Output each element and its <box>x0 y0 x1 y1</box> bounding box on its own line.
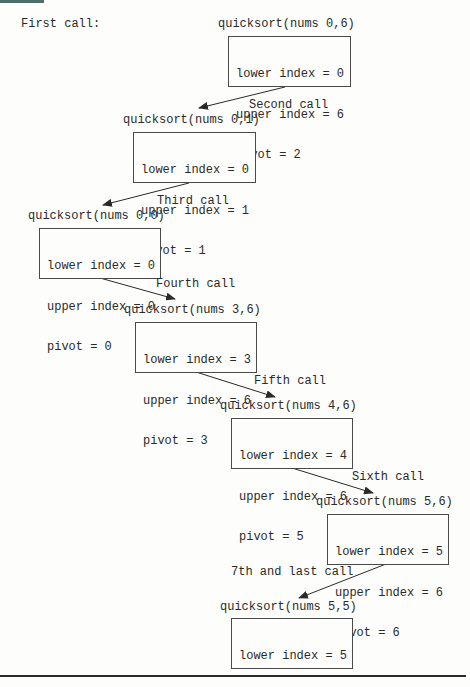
arrow-label-last: 7th and last call <box>231 565 353 579</box>
call-frame-4: lower index = 3 upper index = 6 pivot = … <box>135 322 257 373</box>
call-frame-3: lower index = 0 upper index = 0 pivot = … <box>39 228 161 279</box>
lower-index: lower index = 5 <box>239 650 352 664</box>
upper-index: upper index = 6 <box>335 587 448 601</box>
bottom-divider <box>0 675 466 677</box>
call-title-1: quicksort(nums 0,6) <box>218 17 355 31</box>
arrow-label-sixth: Sixth call <box>352 470 424 484</box>
call-title-5: quicksort(nums 4,6) <box>220 399 357 413</box>
arrow-label-fourth: Fourth call <box>156 277 235 291</box>
call-title-3: quicksort(nums 0,0) <box>28 209 165 223</box>
call-frame-1: lower index = 0 upper index = 6 pivot = … <box>228 36 351 87</box>
call-title-7: quicksort(nums 5,5) <box>220 600 357 614</box>
lower-index: lower index = 0 <box>236 68 350 82</box>
call-frame-2: lower index = 0 upper index = 1 pivot = … <box>133 132 256 183</box>
call-frame-6: lower index = 5 upper index = 6 pivot = … <box>327 514 449 565</box>
call-frame-7: lower index = 5 upper index = 5 pivot = … <box>231 618 353 669</box>
call-title-2: quicksort(nums 0,1) <box>123 113 260 127</box>
lower-index: lower index = 3 <box>143 354 256 368</box>
arrow-label-third: Third call <box>157 194 229 208</box>
call-title-4: quicksort(nums 3,6) <box>124 303 261 317</box>
lower-index: lower index = 5 <box>335 546 448 560</box>
arrow-label-second: Second call <box>249 98 328 112</box>
lower-index: lower index = 0 <box>47 260 160 274</box>
arrow-label-fifth: Fifth call <box>254 374 326 388</box>
lower-index: lower index = 4 <box>239 450 352 464</box>
lower-index: lower index = 0 <box>141 164 255 178</box>
call-frame-5: lower index = 4 upper index = 6 pivot = … <box>231 418 353 469</box>
call-title-6: quicksort(nums 5,6) <box>316 495 453 509</box>
